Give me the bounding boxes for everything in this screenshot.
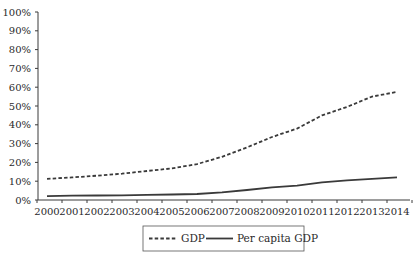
- per-capita-gdp-line: [47, 177, 397, 196]
- x-tick-label: 2005: [159, 206, 184, 217]
- x-tick-label: 2012: [334, 206, 359, 217]
- x-tick-label: 2014: [384, 206, 409, 217]
- y-tick-label: 40%: [9, 119, 31, 130]
- x-tick-label: 2013: [359, 206, 384, 217]
- y-tick-label: 30%: [9, 138, 31, 149]
- x-tick-label: 2007: [209, 206, 234, 217]
- y-tick-label: 100%: [2, 7, 31, 18]
- x-tick-label: 2004: [134, 206, 159, 217]
- line-chart: 0%10%20%30%40%50%60%70%80%90%100% 200020…: [0, 0, 418, 255]
- y-tick-label: 60%: [9, 82, 31, 93]
- x-tick-label: 2000: [34, 206, 59, 217]
- series-lines: [47, 92, 397, 196]
- y-tick-label: 70%: [9, 63, 31, 74]
- legend-label-gdp: GDP: [181, 232, 205, 244]
- y-tick-label: 80%: [9, 44, 31, 55]
- x-tick-label: 2001: [59, 206, 84, 217]
- legend: GDP Per capita GDP: [143, 226, 318, 251]
- y-tick-label: 0%: [15, 195, 31, 206]
- y-axis: 0%10%20%30%40%50%60%70%80%90%100%: [2, 7, 38, 206]
- x-tick-label: 2011: [309, 206, 334, 217]
- y-tick-label: 90%: [9, 25, 31, 36]
- x-tick-label: 2008: [234, 206, 259, 217]
- x-tick-label: 2006: [184, 206, 209, 217]
- x-tick-label: 2009: [259, 206, 284, 217]
- x-tick-label: 2010: [284, 206, 309, 217]
- gdp-line: [47, 92, 397, 179]
- legend-label-per-capita: Per capita GDP: [237, 232, 318, 244]
- x-axis: 2000200120022003200420052006200720082009…: [34, 200, 412, 217]
- y-tick-label: 10%: [9, 176, 31, 187]
- x-tick-label: 2003: [109, 206, 134, 217]
- y-tick-label: 20%: [9, 157, 31, 168]
- x-tick-label: 2002: [84, 206, 109, 217]
- y-tick-label: 50%: [9, 101, 31, 112]
